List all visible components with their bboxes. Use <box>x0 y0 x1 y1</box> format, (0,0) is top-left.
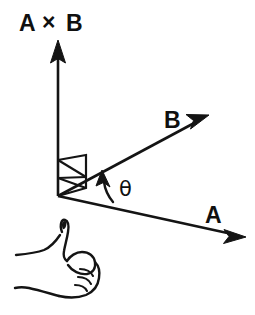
hand-index-knuckle <box>67 252 95 274</box>
hand-back-edge <box>16 235 60 255</box>
diagram-canvas: A × B B A θ <box>0 0 255 315</box>
right-angle-marker-mid-line <box>58 177 86 178</box>
label-vector-b: B <box>164 107 181 133</box>
label-angle-theta: θ <box>119 177 132 201</box>
hand-finger-crease-3 <box>75 285 87 291</box>
hand-fist-right-edge <box>59 262 99 297</box>
hand-thumbnail-icon <box>62 221 66 229</box>
hand-wrist-lower-edge <box>15 287 59 296</box>
vector-a-arrowhead-icon <box>224 230 247 244</box>
hand-finger-crease-2 <box>78 277 91 284</box>
right-angle-marker-diagonal-upper <box>58 160 86 177</box>
angle-arc-arrowhead-icon <box>96 170 110 187</box>
label-cross-product-a: A <box>19 10 36 36</box>
vector-cross-product-figure: A × B B A θ <box>0 0 255 315</box>
right-hand-thumbs-up-illustration <box>15 220 99 298</box>
vector-cross-product-axis <box>51 40 66 196</box>
label-cross-product-b: B <box>66 10 83 36</box>
label-vector-a: A <box>205 202 222 228</box>
cross-symbol-icon: × <box>42 9 55 35</box>
